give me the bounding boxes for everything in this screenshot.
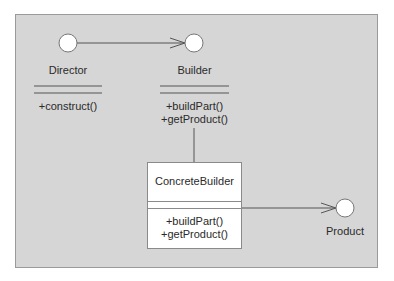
builder-method-getproduct: +getProduct() (150, 113, 239, 126)
director-builder-arrow (77, 38, 185, 48)
concretebuilder-class-name: ConcreteBuilder (148, 175, 241, 188)
concretebuilder-divider-top (148, 201, 241, 202)
director-interface-icon (59, 34, 77, 52)
concretebuilder-class-box: ConcreteBuilder +buildPart() +getProduct… (147, 162, 242, 249)
builder-compartment-lines (160, 86, 229, 93)
director-method-construct: +construct() (28, 100, 108, 113)
product-class-name: Product (315, 225, 375, 238)
builder-interface-icon (185, 34, 203, 52)
builder-class-name: Builder (160, 64, 229, 77)
product-interface-icon (336, 199, 354, 217)
concretebuilder-product-arrow (242, 203, 336, 213)
concretebuilder-divider-bottom (148, 208, 241, 209)
director-class-name: Director (34, 64, 102, 77)
director-compartment-lines (34, 86, 102, 93)
concretebuilder-method-buildpart: +buildPart() (148, 215, 241, 228)
concretebuilder-method-getproduct: +getProduct() (148, 228, 241, 241)
builder-method-buildpart: +buildPart() (150, 100, 239, 113)
